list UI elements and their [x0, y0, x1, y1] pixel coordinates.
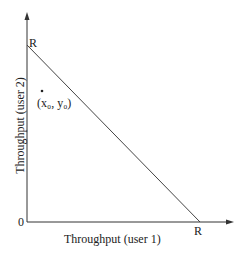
y-axis-arrow-icon — [25, 12, 30, 20]
x-intercept-label: R — [194, 225, 202, 237]
x-axis — [27, 220, 234, 225]
operating-point-marker — [41, 90, 44, 93]
x-axis-arrow-icon — [226, 220, 234, 225]
capacity-region-diagram: R (x₀, y₀) 0 R Throughput (user 1) Throu… — [0, 0, 242, 253]
y-axis-label: Throughput (user 2) — [13, 71, 28, 181]
x-axis-label: Throughput (user 1) — [64, 233, 161, 245]
point-label: (x₀, y₀) — [37, 97, 71, 109]
capacity-boundary-line — [27, 45, 200, 222]
y-intercept-label: R — [29, 37, 37, 49]
origin-label: 0 — [18, 216, 24, 228]
